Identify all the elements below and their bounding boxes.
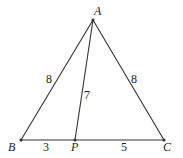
triangle-diagram: A B P C 8 8 7 3 5 — [0, 0, 183, 158]
point-b — [19, 138, 22, 141]
label-a: A — [93, 4, 102, 18]
segment-ap — [75, 20, 93, 140]
segment-ab — [21, 20, 93, 140]
length-ac: 8 — [131, 72, 137, 86]
length-pc: 5 — [121, 140, 127, 154]
label-p: P — [70, 140, 79, 154]
length-ap: 7 — [84, 88, 90, 102]
point-a — [91, 18, 94, 21]
segment-ac — [93, 20, 164, 140]
label-b: B — [8, 140, 16, 154]
length-ab: 8 — [46, 72, 52, 86]
length-bp: 3 — [43, 140, 49, 154]
label-c: C — [163, 140, 172, 154]
